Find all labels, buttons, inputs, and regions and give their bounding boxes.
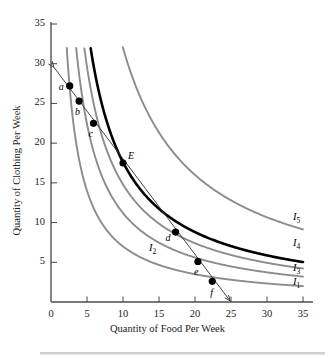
indifference-curve-figure: 051015202530355101520253035 abcEdef I1I2… <box>0 0 335 358</box>
x-tick-label-20: 20 <box>186 308 204 319</box>
curve-label-I1: I1 <box>293 276 300 290</box>
point-marker-a <box>66 82 73 89</box>
curve-label-subscript: 4 <box>296 242 300 251</box>
y-tick-label-10: 10 <box>23 216 45 227</box>
curve-label-subscript: 2 <box>152 247 156 256</box>
point-marker-f <box>209 278 216 285</box>
point-marker-E <box>119 159 126 166</box>
page-divider-rule <box>40 352 325 355</box>
point-label-E: E <box>128 150 134 161</box>
curve-label-subscript: 1 <box>296 281 300 290</box>
chart-plot-area <box>0 0 335 358</box>
y-tick-label-30: 30 <box>23 57 45 68</box>
x-tick-label-15: 15 <box>150 308 168 319</box>
curve-I4 <box>91 48 303 262</box>
curve-label-subscript: 3 <box>296 267 300 276</box>
y-axis-title: Quantity of Clothing Per Week <box>11 71 22 271</box>
x-tick-label-10: 10 <box>114 308 132 319</box>
curve-label-I3: I3 <box>293 262 300 276</box>
point-label-b: b <box>75 106 80 117</box>
point-marker-b <box>75 97 82 104</box>
y-tick-label-25: 25 <box>23 96 45 107</box>
point-label-a: a <box>59 81 64 92</box>
x-tick-label-5: 5 <box>78 308 96 319</box>
point-marker-d <box>172 229 179 236</box>
curve-I2 <box>76 48 303 277</box>
curve-I3 <box>84 49 303 269</box>
point-label-d: d <box>166 232 171 243</box>
curve-I5 <box>123 47 303 229</box>
curve-label-I2: I2 <box>149 242 156 256</box>
y-tick-label-15: 15 <box>23 176 45 187</box>
y-tick-label-5: 5 <box>23 255 45 266</box>
x-axis-title: Quantity of Food Per Week <box>0 323 335 334</box>
point-label-f: f <box>210 287 213 298</box>
x-tick-label-30: 30 <box>258 308 276 319</box>
point-label-c: c <box>88 128 92 139</box>
curve-label-subscript: 5 <box>296 216 300 225</box>
curve-label-I5: I5 <box>293 211 300 225</box>
indifference-curves <box>67 47 303 286</box>
curve-label-I4: I4 <box>293 237 300 251</box>
point-label-e: e <box>194 266 198 277</box>
point-marker-c <box>90 120 97 127</box>
y-tick-label-20: 20 <box>23 136 45 147</box>
point-marker-e <box>194 258 201 265</box>
x-tick-label-35: 35 <box>294 308 312 319</box>
x-tick-label-25: 25 <box>222 308 240 319</box>
x-tick-label-0: 0 <box>42 308 60 319</box>
y-tick-label-35: 35 <box>23 17 45 28</box>
curve-I1 <box>67 48 303 286</box>
